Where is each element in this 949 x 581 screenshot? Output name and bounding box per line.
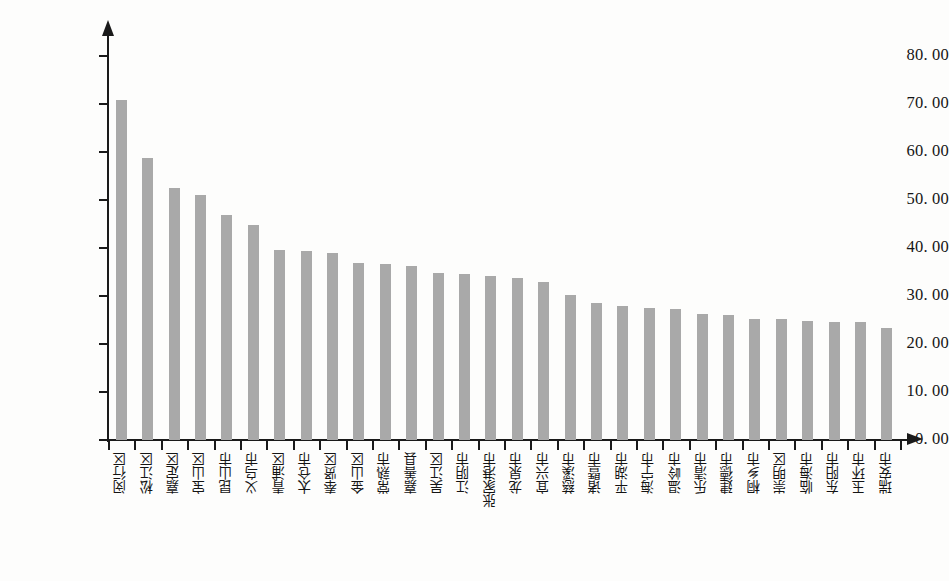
x-axis-category-label: 嘉善县 (404, 452, 420, 494)
x-axis-tick (794, 441, 796, 450)
bar-series (108, 40, 915, 440)
bar (697, 314, 708, 440)
x-axis-tick (847, 441, 849, 450)
bar (485, 276, 496, 440)
bar (855, 322, 866, 440)
x-axis-category-label: 奉贤区 (324, 452, 340, 494)
x-axis-tick (346, 441, 348, 450)
bar (802, 321, 813, 440)
bar (776, 319, 787, 440)
bar-chart: 0. 0010. 0020. 0030. 0040. 0050. 0060. 0… (0, 0, 949, 581)
x-axis-tick (530, 441, 532, 450)
x-axis-tick (451, 441, 453, 450)
bar (406, 266, 417, 440)
x-axis-category-label: 崇明区 (773, 452, 789, 494)
x-axis-tick (689, 441, 691, 450)
x-axis-category-label: 临海市 (800, 452, 816, 494)
x-axis-category-label: 常熟市 (377, 452, 393, 494)
x-axis-tick (610, 441, 612, 450)
bar (644, 308, 655, 440)
y-axis-arrow-icon (102, 20, 114, 36)
bar (565, 295, 576, 440)
bar (459, 274, 470, 440)
x-axis-category-label: 江阴市 (456, 452, 472, 494)
x-axis-category-label: 松江区 (140, 452, 156, 494)
x-axis-category-label: 嘉定区 (166, 452, 182, 494)
x-axis-category-label: 诸暨市 (588, 452, 604, 494)
x-axis-tick (134, 441, 136, 450)
bar (433, 273, 444, 440)
bar (723, 315, 734, 440)
bar (248, 225, 259, 440)
x-axis-tick (372, 441, 374, 450)
x-axis-category-label: 青浦区 (272, 452, 288, 494)
x-axis-category-label: 慈溪市 (562, 452, 578, 494)
x-axis-category-label: 桐乡市 (747, 452, 763, 494)
x-axis-category-label: 宝山区 (192, 452, 208, 494)
x-axis-tick (557, 441, 559, 450)
x-axis-tick (187, 441, 189, 450)
bar (142, 158, 153, 440)
x-axis-category-label: 昆山市 (219, 452, 235, 494)
bar (327, 253, 338, 440)
bar (195, 195, 206, 440)
x-axis-tick (398, 441, 400, 450)
x-axis-tick (874, 441, 876, 450)
x-axis-tick (240, 441, 242, 450)
x-axis-tick (768, 441, 770, 450)
x-axis-category-label: 乐清市 (694, 452, 710, 494)
bar (670, 309, 681, 440)
bar (749, 319, 760, 440)
x-axis-category-label: 张家港市 (483, 452, 499, 508)
bar (538, 282, 549, 440)
x-axis-tick (583, 441, 585, 450)
x-axis-tick (425, 441, 427, 450)
x-axis-tick (108, 441, 110, 450)
bar (829, 322, 840, 440)
x-axis-tick (266, 441, 268, 450)
x-axis-category-label: 温岭市 (668, 452, 684, 494)
x-axis-tick (293, 441, 295, 450)
bar (881, 328, 892, 440)
x-axis-tick (742, 441, 744, 450)
bar (221, 215, 232, 440)
bar (512, 278, 523, 440)
x-axis-category-label: 太仓市 (298, 452, 314, 494)
bar (116, 100, 127, 440)
x-axis-category-label: 金山区 (351, 452, 367, 494)
x-axis-tick (900, 441, 902, 450)
x-axis-tick (662, 441, 664, 450)
x-axis-category-label: 闵行区 (113, 452, 129, 494)
x-axis-tick (161, 441, 163, 450)
bar (617, 306, 628, 440)
x-axis-category-label: 平湖市 (615, 452, 631, 494)
x-axis-category-label: 龙泉市 (509, 452, 525, 494)
bar (591, 303, 602, 440)
x-axis-tick (715, 441, 717, 450)
x-axis-category-label: 海宁市 (641, 452, 657, 494)
x-axis-category-label: 义乌市 (245, 452, 261, 494)
bar (301, 251, 312, 440)
bar (353, 263, 364, 440)
x-axis-category-label: 东阳市 (826, 452, 842, 494)
x-axis-tick (821, 441, 823, 450)
bar (274, 250, 285, 440)
x-axis-tick (636, 441, 638, 450)
x-axis-tick (319, 441, 321, 450)
x-axis-category-label: 玉环市 (852, 452, 868, 494)
bar (169, 188, 180, 440)
x-axis-category-label: 吴江区 (430, 452, 446, 494)
x-axis-category-label: 建德市 (720, 452, 736, 494)
x-axis-tick (214, 441, 216, 450)
x-axis-tick (478, 441, 480, 450)
x-axis-tick (504, 441, 506, 450)
bar (380, 264, 391, 440)
x-axis-category-label: 瑞安市 (879, 452, 895, 494)
x-axis-category-label: 宜兴市 (536, 452, 552, 494)
